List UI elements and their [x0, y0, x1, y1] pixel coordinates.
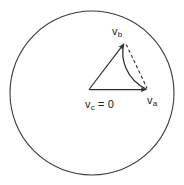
edge-vc-to-vb: [89, 45, 123, 90]
label-vc: vc = 0: [85, 99, 114, 112]
edge-vb-to-va-dashed-chord: [126, 44, 147, 88]
diagram-canvas: [0, 0, 184, 185]
label-vb-subscript: b: [118, 30, 122, 39]
label-vc-suffix: = 0: [95, 98, 114, 110]
label-va-subscript: a: [153, 99, 157, 108]
physics-diagram-figure: vb vc = 0 va: [0, 0, 184, 185]
label-va: va: [147, 95, 157, 108]
edge-vb-to-va-curve: [123, 44, 147, 89]
label-vb: vb: [112, 26, 122, 39]
outer-circle: [10, 11, 174, 175]
